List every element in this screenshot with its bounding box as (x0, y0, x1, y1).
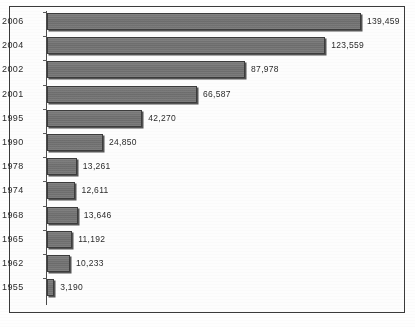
bar-row: 200287,978 (46, 61, 394, 79)
bar-row: 2004123,559 (46, 37, 394, 55)
bar-value-label: 42,270 (148, 113, 176, 124)
bar (47, 279, 54, 296)
bar-fill (47, 134, 103, 151)
bar-row: 197813,261 (46, 158, 394, 176)
bar (47, 13, 361, 30)
category-tick-label: 1990 (2, 136, 40, 149)
bar (47, 182, 75, 199)
bar-row: 2006139,459 (46, 13, 394, 31)
category-tick-label: 1955 (2, 281, 40, 294)
bar-fill (47, 110, 142, 127)
bar-value-label: 12,611 (81, 185, 108, 196)
bar (47, 207, 78, 224)
bar-row: 19553,190 (46, 279, 394, 297)
bar-fill (47, 61, 245, 78)
bar-row: 199542,270 (46, 110, 394, 128)
category-tick-label: 1968 (2, 209, 40, 222)
bar-value-label: 24,850 (109, 137, 137, 148)
category-tick-label: 2002 (2, 63, 40, 76)
bar-value-label: 139,459 (367, 16, 400, 27)
bar-fill (47, 231, 72, 248)
category-tick-label: 1978 (2, 160, 40, 173)
bar (47, 110, 142, 127)
bar (47, 37, 325, 54)
bar-fill (47, 86, 197, 103)
bar (47, 158, 77, 175)
bar (47, 231, 72, 248)
bar-row: 196210,233 (46, 255, 394, 273)
bar-row: 196813,646 (46, 207, 394, 225)
bar (47, 86, 197, 103)
bar-fill (47, 158, 77, 175)
category-tick-label: 2006 (2, 15, 40, 28)
bar-value-label: 13,261 (83, 161, 111, 172)
bar (47, 255, 70, 272)
bar-value-label: 11,192 (78, 234, 105, 245)
category-tick-label: 1962 (2, 257, 40, 270)
bar-value-label: 66,587 (203, 89, 231, 100)
bar-row: 196511,192 (46, 231, 394, 249)
bar-chart-figure: 2006139,4592004123,559200287,978200166,5… (0, 0, 415, 327)
bar-fill (47, 13, 361, 30)
category-tick-label: 1995 (2, 112, 40, 125)
category-tick-label: 2001 (2, 88, 40, 101)
bar (47, 134, 103, 151)
bar-value-label: 13,646 (84, 210, 112, 221)
plot-area: 2006139,4592004123,559200287,978200166,5… (46, 10, 394, 305)
category-tick-label: 2004 (2, 39, 40, 52)
bar-fill (47, 207, 78, 224)
bar-row: 199024,850 (46, 134, 394, 152)
bar-row: 197412,611 (46, 182, 394, 200)
bar (47, 61, 245, 78)
bar-value-label: 123,559 (331, 40, 364, 51)
bar-fill (47, 255, 70, 272)
bar-row: 200166,587 (46, 86, 394, 104)
bar-fill (47, 279, 54, 296)
category-tick-label: 1965 (2, 233, 40, 246)
category-tick-label: 1974 (2, 184, 40, 197)
bar-value-label: 87,978 (251, 64, 279, 75)
bar-value-label: 3,190 (60, 282, 83, 293)
bar-fill (47, 182, 75, 199)
figure-caption (11, 317, 401, 327)
bar-value-label: 10,233 (76, 258, 104, 269)
bar-fill (47, 37, 325, 54)
